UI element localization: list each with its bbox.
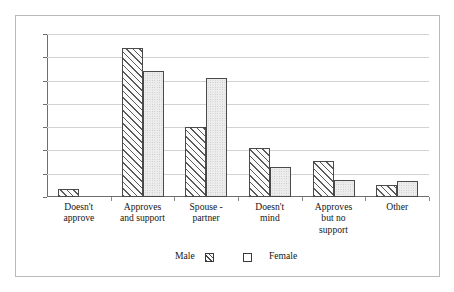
female-plain-swatch [243,253,252,262]
bar-female-4 [334,180,355,197]
legend-label-male: Male [175,250,195,261]
bar-female-3 [270,167,291,197]
x-axis-label-5: Other [365,201,429,212]
bar-female-5 [397,181,418,197]
x-axis-label-4: Approves but no support [302,201,366,235]
legend-label-female: Female [269,250,297,261]
bar-male-2 [185,127,206,197]
bar-male-5 [376,185,397,197]
plot-area [47,34,429,197]
x-axis-label-1: Approves and support [111,201,175,224]
bar-male-0 [58,189,79,197]
bar-female-1 [143,71,164,197]
bar-female-2 [206,78,227,197]
bar-male-1 [122,48,143,197]
x-axis-label-0: Doesn't approve [47,201,111,224]
x-axis-label-3: Doesn't mind [238,201,302,224]
bar-male-4 [313,161,334,197]
y-tick [43,197,47,198]
male-hatched-swatch [205,253,214,262]
x-axis-label-2: Spouse - partner [174,201,238,224]
x-tick [429,197,430,201]
x-axis-labels: Doesn't approveApproves and supportSpous… [47,201,429,251]
bar-male-3 [249,148,270,197]
chart-figure: Doesn't approveApproves and supportSpous… [15,15,440,277]
bar-series-container [47,34,429,197]
chart-legend: Male Female [47,249,429,267]
